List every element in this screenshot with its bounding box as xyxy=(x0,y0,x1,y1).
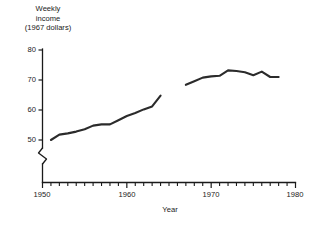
y-axis xyxy=(39,49,47,183)
line-chart: Weekly income (1967 dollars) 80 70 60 50… xyxy=(0,0,319,230)
data-line-segment-2 xyxy=(186,70,279,84)
x-tick-marks xyxy=(43,183,296,189)
y-axis-break-icon xyxy=(39,148,47,164)
x-axis xyxy=(43,183,296,189)
plot-area xyxy=(0,0,319,230)
data-line-segment-1 xyxy=(51,96,161,140)
data-series-group xyxy=(51,70,279,140)
